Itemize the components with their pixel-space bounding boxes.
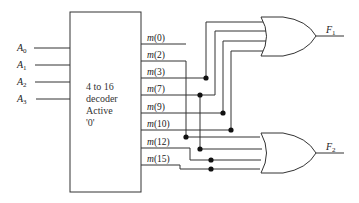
output-label-m12: m(12)	[147, 138, 170, 148]
output-label-m2: m(2)	[147, 51, 165, 61]
decoder-label-line: 4 to 16	[86, 81, 140, 93]
input-label-a1: A1	[17, 60, 27, 72]
output-label-m9: m(9)	[147, 103, 165, 113]
decoder-label-line: '0'	[86, 117, 140, 129]
output-label-m10: m(10)	[147, 120, 170, 130]
or-gate-f2	[261, 133, 316, 173]
junction-dot	[208, 157, 213, 162]
decoder-label: 4 to 16 decoder Active '0'	[77, 81, 140, 129]
output-label-m0: m(0)	[147, 34, 165, 44]
output-label-m7: m(7)	[147, 85, 165, 95]
wire-f1-in3	[223, 41, 266, 113]
junction-dot	[228, 127, 233, 132]
output-label-f2: F2	[326, 142, 336, 154]
junction-dot	[203, 75, 208, 80]
output-label-m3: m(3)	[147, 68, 165, 78]
output-label-m15: m(15)	[147, 155, 170, 165]
junction-dot	[220, 110, 225, 115]
junction-dot	[183, 134, 188, 139]
decoder-label-line: decoder	[86, 93, 140, 105]
wire-f1-in4	[231, 51, 263, 130]
output-label-f1: F1	[326, 25, 336, 37]
circuit-diagram	[0, 0, 359, 203]
junction-dot	[197, 146, 202, 151]
decoder-label-line: Active	[86, 105, 140, 117]
input-label-a3: A3	[17, 94, 27, 106]
or-gate-f1	[261, 17, 316, 56]
junction-dot	[197, 92, 202, 97]
wire-m15	[141, 165, 260, 169]
input-label-a0: A0	[17, 43, 27, 55]
input-label-a2: A2	[17, 77, 27, 89]
junction-dot	[208, 166, 213, 171]
